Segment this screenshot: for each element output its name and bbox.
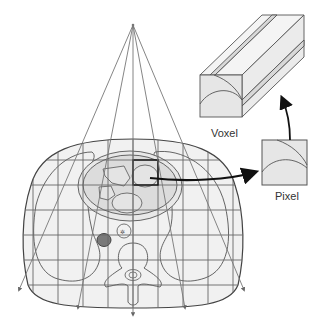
- voxel-label: Voxel: [211, 127, 238, 139]
- svg-text:✲: ✲: [120, 228, 125, 235]
- pixel-label: Pixel: [275, 190, 299, 202]
- enlarged-pixel: Pixel: [262, 140, 307, 202]
- xray-source-point: [132, 24, 135, 27]
- pixel-to-voxel-arrow: [282, 98, 290, 140]
- body-cross-section: ✲: [15, 130, 250, 315]
- ct-voxel-pixel-diagram: ✲: [0, 0, 322, 327]
- heart-chamber-right: [132, 165, 158, 187]
